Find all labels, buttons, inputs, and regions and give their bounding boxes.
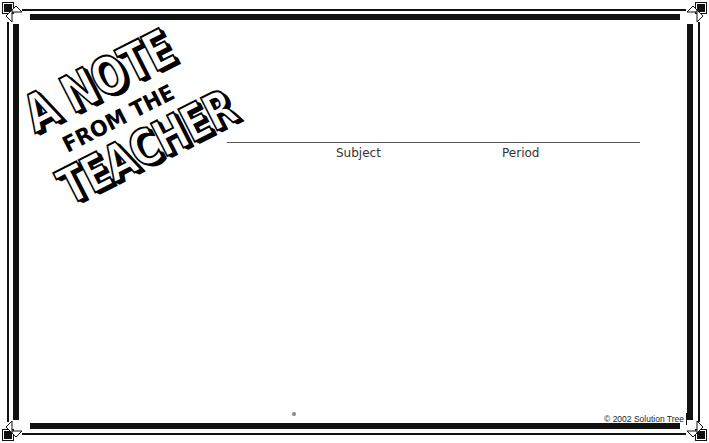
corner-ornament-bottom-left-icon [2,419,24,441]
corner-ornament-bottom-right-icon [685,419,707,441]
copyright-notice: © 2002 Solution Tree [598,413,687,425]
border-left-thin [7,22,9,422]
stray-dot [292,412,296,416]
border-top-thick [30,14,680,20]
corner-ornament-top-left-icon [2,2,24,24]
border-right-thin [698,22,700,422]
fill-in-line[interactable] [227,142,640,143]
border-bottom-thin [22,433,686,435]
border-bottom-thick [30,423,680,429]
border-left-thick [13,24,19,420]
corner-ornament-top-right-icon [685,2,707,24]
period-label: Period [502,146,539,160]
border-top-thin [22,9,686,11]
subject-label: Subject [336,146,381,160]
note-body-area[interactable] [24,165,684,410]
border-right-thick [687,24,693,420]
